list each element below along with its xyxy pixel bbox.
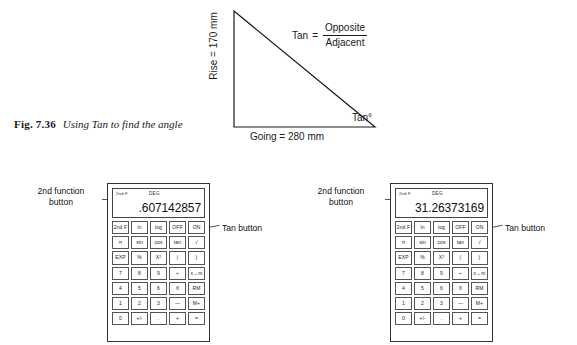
calc-key-ln[interactable]: ln — [131, 221, 148, 234]
callout-second-function-right: 2nd function button — [300, 186, 382, 208]
calc-key-π[interactable]: π — [112, 236, 129, 249]
calc-key-x[interactable]: X — [452, 282, 469, 295]
calculator-keypad-left[interactable]: 2nd FlnlogOFFONπsincostan√EXP%X2()789÷x→… — [112, 221, 205, 325]
calc-key-exp[interactable]: EXP — [395, 251, 412, 264]
calc-key-tan[interactable]: tan — [452, 236, 469, 249]
calc-key-=[interactable]: = — [471, 312, 488, 325]
calc-key-m+[interactable]: M+ — [471, 297, 488, 310]
formula-fraction: Opposite Adjacent — [323, 22, 367, 49]
calc-key-3[interactable]: 3 — [433, 297, 450, 310]
display-mode-indicator: DEG — [432, 191, 443, 196]
tan-formula: Tan = Opposite Adjacent — [292, 22, 367, 49]
triangle-diagram: Rise = 170 mm Going = 280 mm Tan° Tan = … — [200, 0, 480, 160]
display-value: .607142857 — [139, 201, 201, 215]
calculator-right[interactable]: 2nd F DEG 31.26373169 2nd FlnlogOFFONπsi… — [390, 183, 493, 342]
formula-denominator: Adjacent — [323, 36, 367, 49]
calc-key-2[interactable]: 2 — [414, 297, 431, 310]
rise-axis-label: Rise = 170 mm — [208, 0, 220, 96]
calc-key-+[interactable]: + — [169, 312, 186, 325]
callout-tan-button-left: Tan button — [222, 223, 262, 234]
calc-key-+[interactable]: + — [452, 312, 469, 325]
calc-key-0[interactable]: 0 — [395, 312, 412, 325]
calc-key-([interactable]: ( — [169, 251, 186, 264]
formula-numerator: Opposite — [323, 22, 367, 36]
calc-key-0[interactable]: 0 — [112, 312, 129, 325]
going-axis-label: Going = 280 mm — [192, 131, 382, 143]
figure-caption-text: Using Tan to find the angle — [63, 118, 183, 130]
calc-key-tan[interactable]: tan — [169, 236, 186, 249]
calc-key-rm[interactable]: RM — [188, 282, 205, 295]
display-second-function-indicator: 2nd F — [399, 191, 411, 196]
calc-key-√[interactable]: √ — [188, 236, 205, 249]
calc-key-)[interactable]: ) — [471, 251, 488, 264]
display-value: 31.26373169 — [415, 201, 484, 215]
calc-key-m+[interactable]: M+ — [188, 297, 205, 310]
figure-caption: Fig. 7.36Using Tan to find the angle — [14, 117, 184, 131]
calc-key-.[interactable]: . — [150, 312, 167, 325]
calculator-display-right: 2nd F DEG 31.26373169 — [395, 188, 488, 218]
calc-key-+/-[interactable]: +/- — [414, 312, 431, 325]
calc-key-6[interactable]: 6 — [150, 282, 167, 295]
calc-key-cos[interactable]: cos — [433, 236, 450, 249]
calc-key-6[interactable]: 6 — [433, 282, 450, 295]
calculator-display-left: 2nd F DEG .607142857 — [112, 188, 205, 218]
calculator-keypad-right[interactable]: 2nd FlnlogOFFONπsincostan√EXP%X2()789÷x→… — [395, 221, 488, 325]
calc-key-4[interactable]: 4 — [112, 282, 129, 295]
calc-key-)[interactable]: ) — [188, 251, 205, 264]
calc-key-=[interactable]: = — [188, 312, 205, 325]
calc-key-π[interactable]: π — [395, 236, 412, 249]
calc-key-x2[interactable]: X2 — [433, 251, 450, 264]
calc-key-key-11[interactable]: % — [414, 251, 431, 264]
calc-key-÷[interactable]: ÷ — [452, 267, 469, 280]
calc-key-ln[interactable]: ln — [414, 221, 431, 234]
display-second-function-indicator: 2nd F — [116, 191, 128, 196]
calc-key-off[interactable]: OFF — [452, 221, 469, 234]
calc-key-2nd-f[interactable]: 2nd F — [112, 221, 129, 234]
calc-key-log[interactable]: log — [433, 221, 450, 234]
calc-key-([interactable]: ( — [452, 251, 469, 264]
calc-key-1[interactable]: 1 — [112, 297, 129, 310]
calc-key-8[interactable]: 8 — [131, 267, 148, 280]
formula-lhs: Tan — [292, 30, 308, 42]
calc-key-x→m[interactable]: x→m — [188, 267, 205, 280]
calc-key-5[interactable]: 5 — [414, 282, 431, 295]
calc-key-9[interactable]: 9 — [433, 267, 450, 280]
calc-key-key-28[interactable]: — — [452, 297, 469, 310]
calc-key-x2[interactable]: X2 — [150, 251, 167, 264]
calc-key-on[interactable]: ON — [471, 221, 488, 234]
calc-key-sin[interactable]: sin — [131, 236, 148, 249]
calc-key-x[interactable]: X — [169, 282, 186, 295]
calc-key-.[interactable]: . — [433, 312, 450, 325]
calc-key-3[interactable]: 3 — [150, 297, 167, 310]
calc-key-4[interactable]: 4 — [395, 282, 412, 295]
calc-key-2[interactable]: 2 — [131, 297, 148, 310]
callout-tan-button-right: Tan button — [505, 223, 545, 234]
tan-angle-label: Tan° — [352, 112, 372, 124]
figure-number: Fig. 7.36 — [14, 118, 56, 130]
display-mode-indicator: DEG — [149, 191, 160, 196]
calc-key-1[interactable]: 1 — [395, 297, 412, 310]
calc-key-key-11[interactable]: % — [131, 251, 148, 264]
formula-equals: = — [312, 30, 318, 42]
calc-key-off[interactable]: OFF — [169, 221, 186, 234]
calc-key-5[interactable]: 5 — [131, 282, 148, 295]
calc-key-on[interactable]: ON — [188, 221, 205, 234]
calc-key-key-28[interactable]: — — [169, 297, 186, 310]
calculator-left[interactable]: 2nd F DEG .607142857 2nd FlnlogOFFONπsin… — [107, 183, 210, 342]
calc-key-rm[interactable]: RM — [471, 282, 488, 295]
calc-key-+/-[interactable]: +/- — [131, 312, 148, 325]
calc-key-2nd-f[interactable]: 2nd F — [395, 221, 412, 234]
calc-key-x→m[interactable]: x→m — [471, 267, 488, 280]
calc-key-√[interactable]: √ — [471, 236, 488, 249]
calc-key-7[interactable]: 7 — [112, 267, 129, 280]
calc-key-exp[interactable]: EXP — [112, 251, 129, 264]
calc-key-7[interactable]: 7 — [395, 267, 412, 280]
calc-key-9[interactable]: 9 — [150, 267, 167, 280]
calc-key-cos[interactable]: cos — [150, 236, 167, 249]
callout-second-function-left: 2nd function button — [20, 186, 102, 208]
calc-key-log[interactable]: log — [150, 221, 167, 234]
calc-key-8[interactable]: 8 — [414, 267, 431, 280]
calc-key-sin[interactable]: sin — [414, 236, 431, 249]
calc-key-÷[interactable]: ÷ — [169, 267, 186, 280]
